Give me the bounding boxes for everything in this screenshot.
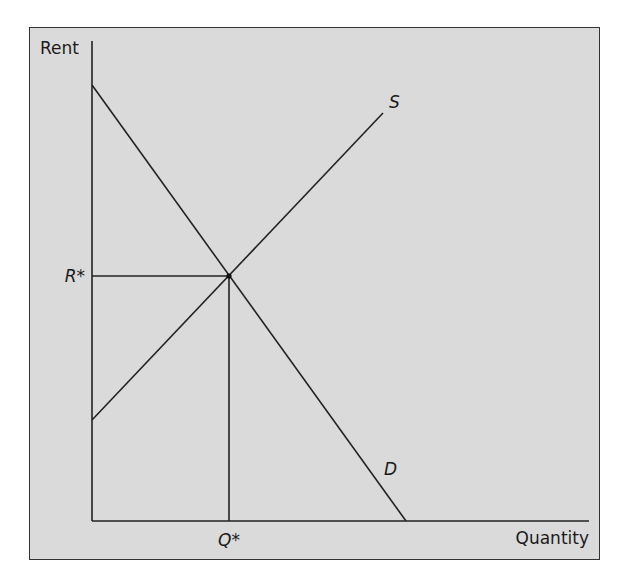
y-axis-label: Rent: [40, 38, 79, 58]
r-star-label: R*: [65, 266, 85, 286]
supply-demand-chart: Rent Quantity R* Q* S D: [0, 0, 628, 588]
x-axis-label: Quantity: [516, 528, 589, 548]
equilibrium-point: [226, 273, 231, 278]
demand-label: D: [384, 459, 397, 479]
supply-curve: [92, 113, 383, 420]
q-star-label: Q*: [218, 530, 240, 550]
supply-label: S: [389, 92, 400, 112]
demand-curve: [92, 85, 406, 521]
